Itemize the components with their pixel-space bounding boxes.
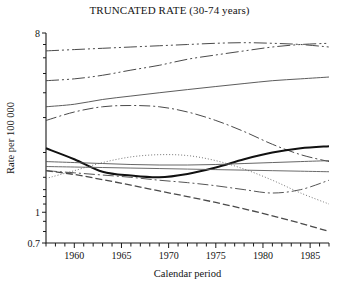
y-axis-title: Rate per 100 000 [5, 102, 16, 174]
y-tick-label: 0.7 [28, 238, 41, 249]
x-tick-label: 1970 [159, 250, 179, 261]
x-tick-label: 1965 [111, 250, 131, 261]
series-group [46, 43, 329, 232]
x-axis-title: Calendar period [154, 268, 222, 279]
axis-lines [46, 33, 329, 243]
x-tick-label: 1975 [206, 250, 226, 261]
series-line-series-4 [46, 106, 329, 162]
series-line-series-6 [46, 161, 329, 165]
y-tick-label: 8 [35, 28, 40, 39]
series-line-series-10 [46, 171, 329, 232]
series-line-series-8 [46, 167, 329, 172]
line-chart-plot: 810.7196019651970197519801985Calendar pe… [0, 0, 339, 286]
y-tick-label: 1 [35, 207, 40, 218]
axes-group [42, 33, 329, 248]
series-line-series-3 [46, 77, 329, 107]
x-tick-label: 1985 [300, 250, 320, 261]
chart-figure: TRUNCATED RATE (30-74 years) 810.7196019… [0, 0, 339, 286]
series-line-series-1 [46, 43, 329, 51]
x-tick-label: 1960 [64, 250, 84, 261]
x-tick-label: 1980 [253, 250, 273, 261]
